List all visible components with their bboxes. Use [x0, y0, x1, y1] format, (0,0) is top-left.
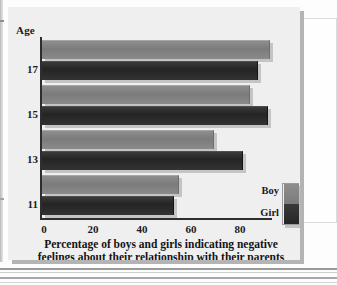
page-left-nick-bottom: [0, 198, 4, 200]
legend-label-girl: Girl: [243, 207, 279, 218]
bar-fill: [42, 151, 243, 170]
bar-fill: [42, 196, 174, 215]
category-label-13: 13: [14, 153, 38, 165]
page-bottom-edge-line-4: [0, 282, 337, 283]
x-axis-title-line2: feelings about their relationship with t…: [30, 251, 292, 260]
x-tick-label-0: 0: [41, 223, 47, 235]
x-tick-label-40: 40: [137, 223, 148, 235]
bar-fill: [42, 106, 268, 125]
chart-legend: Boy Girl: [253, 183, 300, 230]
page-right-margin-panel: [299, 18, 337, 223]
legend-swatch-box: [282, 183, 299, 225]
x-tick-label-60: 60: [186, 223, 197, 235]
x-tick-label-20: 20: [88, 223, 99, 235]
bar-fill: [42, 61, 258, 80]
screenshot-root: Age 17 15: [0, 0, 337, 285]
bar-girl-15: [42, 106, 268, 125]
legend-swatch-boy: [284, 184, 299, 204]
page-left-nick-top: [0, 20, 4, 22]
x-tick-label-80: 80: [235, 223, 246, 235]
bar-fill: [42, 130, 214, 149]
bar-boy-17: [42, 40, 270, 59]
category-label-11: 11: [14, 198, 38, 210]
bar-girl-11: [42, 196, 174, 215]
bar-fill: [42, 175, 179, 194]
category-label-17: 17: [14, 63, 38, 75]
bar-fill: [42, 40, 270, 59]
page-left-edge: [0, 0, 3, 262]
bar-boy-13: [42, 130, 214, 149]
x-axis-title: Percentage of boys and girls indicating …: [30, 238, 292, 260]
legend-label-boy: Boy: [243, 185, 279, 196]
x-axis-title-line1: Percentage of boys and girls indicating …: [30, 238, 292, 251]
bar-fill: [42, 85, 250, 104]
page-bottom-edge-line-3: [0, 277, 337, 279]
page-bottom-edge-line-2: [0, 272, 337, 273]
bar-boy-15: [42, 85, 250, 104]
category-label-15: 15: [14, 108, 38, 120]
figure-card: Age 17 15: [8, 7, 300, 260]
y-axis-title: Age: [16, 24, 35, 36]
bar-girl-17: [42, 61, 258, 80]
bar-boy-11: [42, 175, 179, 194]
x-axis-line: [40, 218, 272, 220]
bar-girl-13: [42, 151, 243, 170]
bar-chart-plot: Age 17 15: [8, 7, 300, 260]
legend-swatch-girl: [284, 204, 299, 224]
page-bottom-edge-line-1: [0, 268, 337, 270]
